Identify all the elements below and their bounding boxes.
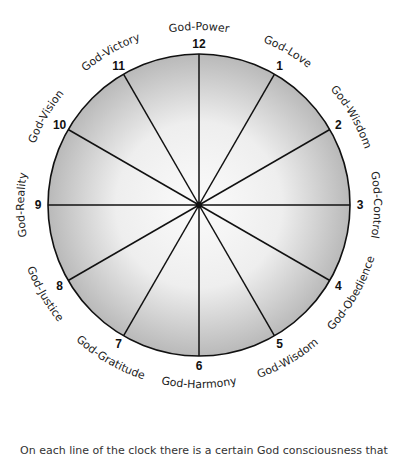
god-clock-diagram: 121234567891011 God-PowerGod-LoveGod-Wis… (0, 0, 404, 440)
position-label-3: God-Control (368, 170, 384, 239)
hour-number-2: 2 (335, 118, 342, 132)
hour-number-11: 11 (112, 59, 125, 73)
hour-number-7: 7 (115, 337, 122, 351)
hour-number-1: 1 (276, 59, 283, 73)
position-label-11: God-Victory (79, 30, 142, 74)
position-label-12: God-Power (168, 20, 231, 36)
hour-number-3: 3 (357, 198, 364, 212)
position-label-5: God-Wisdom (255, 336, 320, 381)
hour-number-6: 6 (196, 359, 203, 373)
center-dot (196, 202, 202, 208)
hour-number-12: 12 (192, 37, 206, 51)
hour-number-5: 5 (276, 337, 283, 351)
hour-number-4: 4 (335, 279, 342, 293)
position-label-10: God-Vision (26, 87, 67, 145)
position-label-6: God-Harmony (160, 374, 238, 391)
position-label-8: God-Justice (24, 264, 66, 324)
caption-text: On each line of the clock there is a cer… (20, 444, 384, 454)
position-label-1: God-Love (262, 33, 314, 71)
hour-number-9: 9 (35, 198, 42, 212)
hour-number-8: 8 (56, 279, 63, 293)
hour-number-10: 10 (53, 118, 67, 132)
position-label-9: God-Reality (14, 171, 30, 238)
